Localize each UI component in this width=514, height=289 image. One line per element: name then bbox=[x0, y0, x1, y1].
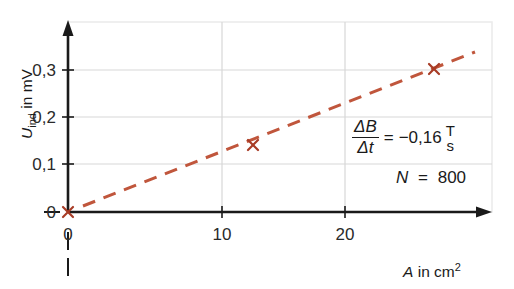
x-tick-label-0: 0 bbox=[63, 225, 72, 244]
x-axis-title-exponent: 2 bbox=[455, 261, 461, 273]
chart-figure: 0,3 0,2 0,1 0 0 10 20 Uind in mV bbox=[0, 0, 514, 289]
data-point-1 bbox=[248, 140, 258, 150]
unit-numerator: T bbox=[446, 123, 455, 138]
x-axis-title-symbol: A bbox=[402, 263, 413, 280]
turns-equals: = bbox=[418, 168, 428, 187]
formula-equals: = bbox=[384, 129, 394, 146]
y-tick-label-3: 0 bbox=[47, 203, 56, 222]
data-point-2 bbox=[429, 64, 439, 74]
turns-annotation: N = 800 bbox=[396, 168, 466, 188]
x-axis-arrowhead bbox=[476, 207, 492, 218]
y-tick-label-2: 0,1 bbox=[32, 155, 56, 174]
turns-symbol: N bbox=[396, 168, 408, 187]
unit-denominator: s bbox=[447, 138, 455, 153]
y-axis-title-rest: in mV bbox=[18, 68, 35, 113]
y-axis-title-symbol: U bbox=[18, 127, 35, 139]
y-axis bbox=[63, 20, 74, 212]
x-axis bbox=[68, 207, 492, 218]
x-tick-label-2: 20 bbox=[336, 225, 355, 244]
formula-denominator: Δt bbox=[355, 139, 375, 157]
turns-value: 800 bbox=[438, 168, 466, 187]
formula-numerator: ΔB bbox=[352, 118, 379, 136]
formula-annotation: ΔB Δt = −0,16 T s bbox=[352, 118, 455, 157]
x-axis-title-rest: in cm bbox=[413, 263, 454, 280]
x-tick-label-1: 10 bbox=[213, 225, 232, 244]
formula-value: −0,16 bbox=[399, 129, 442, 146]
delta-b-delta-t-fraction: ΔB Δt bbox=[352, 118, 379, 157]
y-axis-title-subscript: ind bbox=[26, 113, 38, 128]
y-tick-label-0: 0,3 bbox=[32, 61, 56, 80]
unit-fraction: T s bbox=[446, 123, 455, 153]
x-axis-title: A in cm2 bbox=[402, 261, 461, 280]
